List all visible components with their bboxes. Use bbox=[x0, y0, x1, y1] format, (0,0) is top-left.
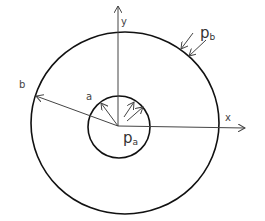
x-axis bbox=[118, 126, 245, 128]
outer-pressure-symbol: p bbox=[200, 24, 210, 42]
x-axis-label: x bbox=[225, 113, 231, 123]
inner-circle bbox=[88, 96, 150, 158]
inner-pressure-arrow bbox=[124, 102, 134, 117]
outer-pressure-arrow bbox=[181, 33, 193, 49]
cylinder-figure bbox=[0, 0, 265, 221]
inner-radius-label: a bbox=[86, 92, 92, 102]
radius-b-arrow bbox=[36, 96, 118, 126]
diagram: y x b a pa pb bbox=[0, 0, 265, 221]
outer-radius-label: b bbox=[19, 80, 25, 90]
y-axis-label: y bbox=[121, 17, 127, 27]
outer-pressure-subscript: b bbox=[210, 32, 216, 42]
outer-pressure-label: pb bbox=[200, 26, 215, 42]
inner-pressure-subscript: a bbox=[133, 137, 139, 147]
inner-pressure-label: pa bbox=[123, 131, 138, 147]
outer-circle bbox=[31, 32, 219, 214]
outer-pressure-arrow bbox=[189, 40, 206, 56]
inner-pressure-symbol: p bbox=[123, 129, 133, 147]
